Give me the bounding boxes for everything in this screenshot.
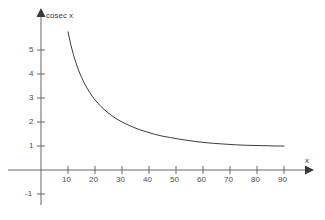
x-tick-label: 20 xyxy=(89,176,98,184)
x-axis-arrow-icon xyxy=(305,166,314,175)
x-tick-label: 50 xyxy=(170,176,179,184)
x-tick-label: 90 xyxy=(278,176,287,184)
x-axis-title: x xyxy=(305,157,309,165)
x-tick-label: 70 xyxy=(224,176,233,184)
y-tick-label: 5 xyxy=(29,46,33,54)
y-tick-label: 4 xyxy=(29,70,33,78)
plot-canvas xyxy=(0,0,325,220)
y-tick-label: 1 xyxy=(29,142,33,150)
x-tick-label: 60 xyxy=(197,176,206,184)
y-axis-title: cosec x xyxy=(46,12,73,20)
x-tick-label: 30 xyxy=(116,176,125,184)
y-tick-label: 2 xyxy=(29,118,33,126)
y-tick-label: 3 xyxy=(29,94,33,102)
x-tick-label: 40 xyxy=(143,176,152,184)
x-tick-label: 80 xyxy=(251,176,260,184)
data-series-cosec xyxy=(68,32,284,146)
x-tick-label: 10 xyxy=(62,176,71,184)
chart-figure: 10 20 30 40 50 60 70 80 90 5 4 3 2 1 -1 … xyxy=(0,0,325,220)
y-axis-arrow-icon xyxy=(37,8,46,17)
y-tick-label: -1 xyxy=(25,190,32,198)
